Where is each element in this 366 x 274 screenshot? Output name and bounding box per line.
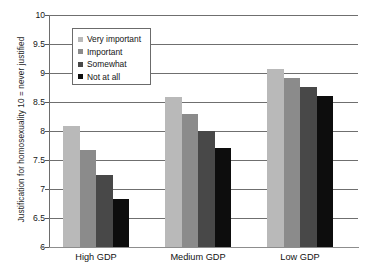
y-axis-tick-label: 8.5: [19, 97, 45, 107]
y-axis-tick-label: 6.5: [19, 213, 45, 223]
y-axis-tick-label: 8: [19, 126, 45, 136]
bar: [300, 87, 317, 247]
y-axis-tick-mark: [45, 247, 49, 248]
legend-item: Not at all: [78, 71, 150, 84]
bar: [182, 114, 199, 247]
bar: [165, 97, 182, 247]
y-axis-tick-mark: [45, 218, 49, 219]
x-axis-line: [40, 247, 359, 248]
legend-swatch-icon: [78, 49, 83, 54]
legend-item-label: Somewhat: [87, 60, 127, 68]
bar-chart: Justification for homosexuality 10 = nev…: [0, 0, 366, 274]
legend-item-label: Important: [87, 48, 122, 56]
y-axis-tick-label: 10: [19, 10, 45, 20]
bar: [113, 199, 130, 247]
bar: [80, 150, 97, 247]
y-axis-tick-mark: [45, 73, 49, 74]
y-axis-tick-labels: 109.598.587.576.56: [18, 0, 45, 274]
y-axis-tick-label: 7.5: [19, 155, 45, 165]
y-axis-tick-label: 7: [19, 184, 45, 194]
legend-item-label: Very important: [87, 35, 141, 43]
y-axis-tick-mark: [45, 189, 49, 190]
x-axis-tick-label: Low GDP: [280, 252, 319, 262]
legend-swatch-icon: [78, 74, 83, 79]
y-axis-tick-label: 9: [19, 68, 45, 78]
bar: [63, 126, 80, 247]
bar: [284, 78, 301, 247]
bar: [96, 175, 113, 248]
y-axis-tick-mark: [45, 15, 49, 16]
y-axis-tick-label: 9.5: [19, 39, 45, 49]
y-axis-tick-mark: [45, 160, 49, 161]
y-axis-tick-mark: [45, 44, 49, 45]
legend-item: Somewhat: [78, 58, 150, 71]
y-axis-tick-mark: [45, 102, 49, 103]
bar: [267, 69, 284, 247]
x-axis-tick-label: High GDP: [75, 252, 116, 262]
gridline: [49, 15, 358, 16]
legend: Very importantImportantSomewhatNot at al…: [72, 28, 151, 85]
bar: [317, 96, 334, 247]
legend-swatch-icon: [78, 37, 83, 42]
bar: [215, 148, 232, 247]
bar: [198, 131, 215, 247]
x-axis-tick-label: Medium GDP: [170, 252, 225, 262]
legend-swatch-icon: [78, 62, 83, 67]
y-axis-tick-mark: [45, 131, 49, 132]
legend-item: Very important: [78, 33, 150, 46]
legend-item: Important: [78, 46, 150, 59]
legend-item-label: Not at all: [87, 73, 120, 81]
